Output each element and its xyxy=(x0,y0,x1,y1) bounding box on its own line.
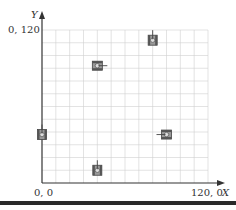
x-axis-arrow-icon xyxy=(217,180,225,186)
x-axis-label: X xyxy=(222,188,229,198)
y-axis-arrow-icon xyxy=(39,11,45,19)
tank-icon xyxy=(148,30,157,45)
y-axis-label: Y xyxy=(31,10,38,20)
grid xyxy=(42,30,208,183)
tank-icon xyxy=(92,61,107,70)
x-max-label: 120, 0 xyxy=(191,188,223,198)
tank-icon xyxy=(157,130,172,139)
tanks xyxy=(38,30,172,175)
y-max-label: 0, 120 xyxy=(8,25,40,35)
origin-label: 0, 0 xyxy=(34,188,53,198)
bottom-divider xyxy=(0,201,236,205)
tank-icon xyxy=(93,160,102,175)
tank-icon xyxy=(38,125,47,140)
